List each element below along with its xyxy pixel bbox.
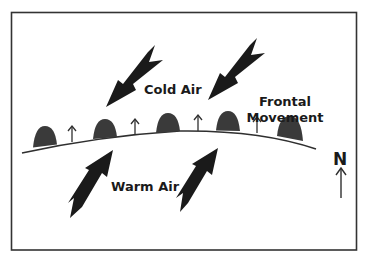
warm-air-label: Warm Air <box>111 179 180 194</box>
cold-air-label: Cold Air <box>144 82 202 97</box>
frontal-movement-label-line1: Frontal <box>259 94 311 109</box>
warm-front-diagram: Cold Air Frontal Movement Warm Air N <box>0 0 370 264</box>
north-label: N <box>333 149 347 169</box>
frontal-movement-label-line2: Movement <box>247 110 324 125</box>
